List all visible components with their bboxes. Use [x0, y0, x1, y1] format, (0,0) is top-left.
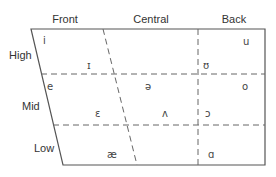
row-label-low: Low	[34, 142, 54, 154]
vowel-open-o: ɔ	[205, 108, 211, 119]
row-label-high: High	[9, 49, 32, 61]
vowel-chart: Front Central Back High Mid Low i ɪ u ʊ …	[0, 0, 276, 177]
column-label-central: Central	[133, 13, 168, 25]
vowel-i: i	[43, 35, 46, 46]
vowel-o: o	[242, 81, 248, 92]
front-central-divider	[103, 29, 137, 165]
vowel-space-outline	[31, 29, 265, 165]
vowel-lax-u: ʊ	[203, 60, 209, 71]
row-label-mid: Mid	[22, 100, 40, 112]
vowel-lax-i: ɪ	[87, 60, 91, 71]
column-label-back: Back	[222, 13, 247, 25]
column-label-front: Front	[52, 13, 78, 25]
vowel-epsilon: ɛ	[95, 108, 100, 119]
vowel-ash: æ	[107, 149, 117, 160]
vowel-u: u	[243, 36, 249, 47]
vowel-script-a: ɑ	[208, 149, 214, 160]
vowel-e: e	[47, 81, 53, 92]
vowel-wedge: ʌ	[162, 108, 168, 119]
vowel-schwa: ə	[145, 81, 151, 92]
